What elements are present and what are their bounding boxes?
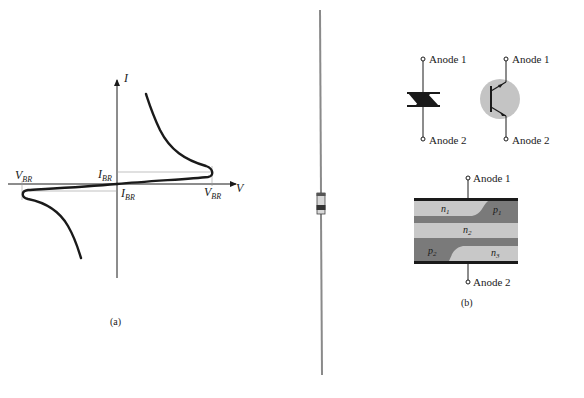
structure-anode2-label: Anode 2	[473, 276, 511, 288]
diode-band-bottom	[317, 205, 326, 210]
terminal-anode2	[504, 137, 508, 141]
lower-lead-wire	[321, 214, 322, 375]
iv-characteristic-graph: I V VBR IBR IBR VBR (a)	[8, 71, 245, 328]
ibr-bottom-label: IBR	[120, 186, 135, 202]
structure-anode1-label: Anode 1	[473, 172, 511, 184]
vbr-left-label: VBR	[15, 168, 32, 184]
diac-component-photo	[317, 10, 326, 375]
terminal-anode1	[466, 176, 470, 180]
diode-body	[317, 193, 325, 214]
terminal-anode2	[421, 137, 425, 141]
terminal-anode1	[421, 57, 425, 61]
i-axis-label: I	[123, 71, 129, 85]
diac-anode1-label: Anode 1	[429, 53, 467, 65]
iv-curve-positive	[117, 94, 212, 184]
diac-figure: I V VBR IBR IBR VBR (a) Anode 1 Anode 2	[0, 0, 584, 398]
top-contact	[414, 198, 518, 201]
terminal-anode1	[504, 57, 508, 61]
diac-symbol: Anode 1 Anode 2	[407, 53, 467, 146]
diac-anode2-label: Anode 2	[429, 134, 467, 146]
ibr-top-label: IBR	[97, 167, 112, 183]
region-n1	[414, 201, 488, 216]
transistor-anode1-label: Anode 1	[512, 53, 550, 65]
transistor-anode2-label: Anode 2	[512, 134, 550, 146]
diac-layer-structure: Anode 1 Anode 2 n1 p1 n2 p2 n3	[414, 172, 518, 288]
v-axis-label: V	[236, 181, 245, 195]
vbr-right-label: VBR	[204, 185, 221, 201]
diode-band-top	[317, 193, 326, 196]
bidirectional-transistor-symbol: Anode 1 Anode 2	[480, 53, 550, 146]
caption-b: (b)	[461, 297, 473, 309]
iv-curve-negative	[23, 184, 117, 258]
caption-a: (a)	[110, 316, 121, 328]
terminal-anode2	[466, 280, 470, 284]
region-n3	[449, 246, 518, 261]
upper-lead-wire	[320, 10, 321, 195]
bottom-contact	[414, 261, 518, 264]
